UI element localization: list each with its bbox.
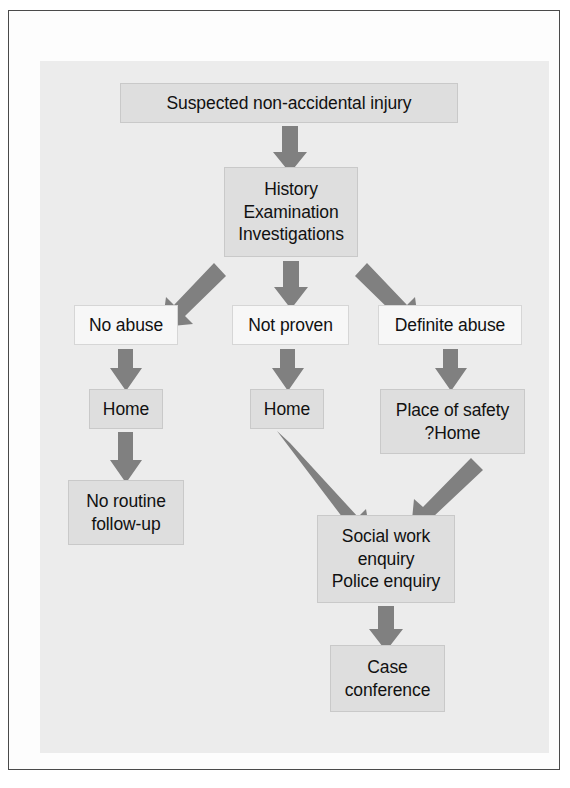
flow-node-label: Case [367, 656, 407, 678]
flow-node-label: Not proven [248, 314, 333, 336]
flow-node-no-routine-follow-up: No routinefollow-up [68, 480, 184, 545]
flow-node-label: Place of safety [396, 399, 509, 421]
flow-node-social-work: Social workenquiryPolice enquiry [317, 515, 455, 603]
flow-node-label: Examination [243, 201, 338, 223]
flowchart-node-layer: Suspected non-accidental injuryHistoryEx… [0, 0, 570, 788]
flow-node-no-abuse: No abuse [74, 305, 178, 345]
flow-node-label: ?Home [425, 422, 481, 444]
flow-node-place-of-safety: Place of safety?Home [380, 389, 525, 454]
flow-node-assessment: HistoryExaminationInvestigations [224, 167, 358, 257]
flow-node-label: conference [345, 679, 431, 701]
figure-page: Suspected non-accidental injuryHistoryEx… [0, 0, 570, 788]
flow-node-label: No abuse [89, 314, 163, 336]
flow-node-label: Police enquiry [332, 570, 441, 592]
flow-node-label: follow-up [91, 513, 160, 535]
flow-node-label: Definite abuse [395, 314, 505, 336]
flow-node-label: enquiry [358, 548, 415, 570]
flow-node-home-middle: Home [250, 389, 324, 429]
flow-node-label: Suspected non-accidental injury [167, 92, 412, 114]
flow-node-label: Home [264, 398, 310, 420]
flow-node-label: Investigations [238, 223, 344, 245]
flow-node-not-proven: Not proven [232, 305, 349, 345]
flow-node-label: Home [103, 398, 149, 420]
flow-node-definite-abuse: Definite abuse [378, 305, 522, 345]
flow-node-label: No routine [86, 490, 166, 512]
flow-node-label: History [264, 178, 318, 200]
flow-node-suspected: Suspected non-accidental injury [120, 83, 458, 123]
flow-node-home-left: Home [89, 389, 163, 429]
flow-node-label: Social work [342, 525, 430, 547]
flow-node-case-conference: Caseconference [330, 645, 445, 712]
